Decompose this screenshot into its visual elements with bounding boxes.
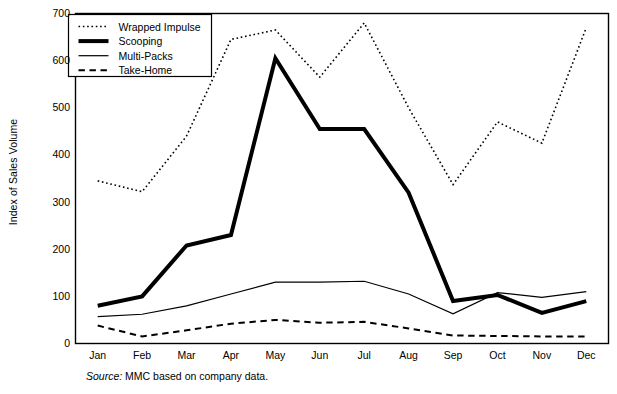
y-tick-label: 700 (28, 8, 70, 18)
legend-label: Wrapped Impulse (119, 21, 201, 33)
source-note: Source: MMC based on company data. (86, 370, 268, 382)
y-axis-tick-labels: 0100200300400500600700 (24, 0, 70, 394)
chart-figure: Index of Sales Volume 010020030040050060… (0, 0, 617, 394)
y-tick-label: 100 (28, 291, 70, 301)
y-tick-label: 200 (28, 244, 70, 254)
source-text: MMC based on company data. (125, 370, 268, 382)
plot-area: Wrapped ImpulseScoopingMulti-PacksTake-H… (0, 0, 617, 394)
legend-label: Multi-Packs (119, 50, 173, 62)
y-tick-label: 600 (28, 55, 70, 65)
source-label: Source: (86, 370, 122, 382)
y-tick-label: 300 (28, 197, 70, 207)
series-line-scooping (98, 58, 587, 313)
series-line-multi-packs (98, 281, 587, 316)
y-tick-label: 400 (28, 149, 70, 159)
legend-label: Scooping (119, 35, 163, 47)
chart-legend: Wrapped ImpulseScoopingMulti-PacksTake-H… (69, 15, 212, 77)
y-tick-label: 500 (28, 102, 70, 112)
series-line-take-home (98, 320, 587, 337)
legend-label: Take-Home (119, 64, 173, 76)
y-tick-label: 0 (28, 338, 70, 348)
